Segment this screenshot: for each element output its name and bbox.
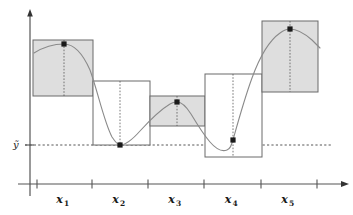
box-group	[33, 21, 318, 157]
figure-root: ỹ x 1 x 2 x 3 x 4 x 5	[0, 0, 353, 215]
y-tilde-axis-label: ỹ	[12, 139, 19, 150]
data-point-2	[117, 142, 122, 147]
data-point-1	[61, 41, 66, 46]
y-axis	[25, 9, 34, 196]
x-tick-label-5: x 5	[280, 193, 294, 208]
x-tick-label-2: x 2	[111, 193, 125, 208]
x-tick-label-3-sub: 3	[176, 199, 181, 208]
x-tick-label-2-base: x	[111, 193, 119, 206]
x-tick-label-2-sub: 2	[120, 199, 125, 208]
x-axis-arrowhead	[341, 181, 349, 187]
x-tick-label-1: x 1	[55, 193, 69, 208]
x-tick-label-4-base: x	[224, 193, 232, 206]
x-tick-label-1-base: x	[55, 193, 63, 206]
box-2	[93, 81, 150, 145]
x-tick-label-group: x 1 x 2 x 3 x 4 x 5	[55, 193, 294, 208]
data-point-4	[230, 137, 235, 142]
x-tick-label-3-base: x	[167, 193, 175, 206]
data-point-3	[174, 99, 179, 104]
x-tick-label-5-sub: 5	[289, 199, 294, 208]
plot-canvas: ỹ x 1 x 2 x 3 x 4 x 5	[0, 0, 353, 215]
x-tick-label-1-sub: 1	[64, 199, 69, 208]
box-4	[205, 74, 262, 157]
x-tick-label-4: x 4	[224, 193, 238, 208]
y-axis-arrowhead	[27, 9, 33, 17]
x-tick-label-3: x 3	[167, 193, 181, 208]
x-tick-label-5-base: x	[280, 193, 288, 206]
x-tick-label-4-sub: 4	[232, 199, 237, 208]
data-point-5	[287, 26, 292, 31]
x-axis	[18, 180, 349, 189]
